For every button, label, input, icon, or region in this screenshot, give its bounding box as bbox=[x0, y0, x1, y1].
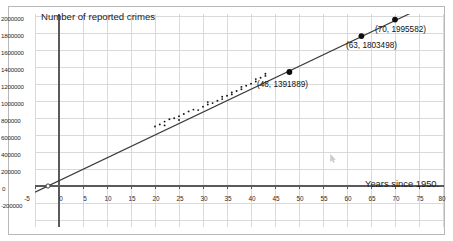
y-tick-label: 400000 bbox=[1, 152, 20, 158]
x-tick-label: 60 bbox=[340, 196, 356, 202]
scatter-points bbox=[154, 73, 266, 128]
y-tick-label: 1400000 bbox=[1, 67, 24, 73]
mouse-cursor-icon bbox=[330, 154, 336, 163]
point-annotation-70: (70, 1995582) bbox=[375, 25, 426, 34]
x-tick-label: 30 bbox=[196, 196, 212, 202]
x-tick-label: 20 bbox=[148, 196, 164, 202]
y-tick-label: 1600000 bbox=[1, 50, 24, 56]
y-axis-title: Number of reported crimes bbox=[41, 11, 155, 22]
x-tick-label: 5 bbox=[78, 196, 92, 202]
x-axis-title: Years since 1950. bbox=[365, 178, 439, 189]
x-tick-label: 50 bbox=[292, 196, 308, 202]
x-tick-label: 0 bbox=[54, 196, 68, 202]
data-point-70 bbox=[392, 17, 398, 23]
x-tick-label: 25 bbox=[172, 196, 188, 202]
x-tick-label: 45 bbox=[268, 196, 284, 202]
x-tick-label: 55 bbox=[316, 196, 332, 202]
y-axis-tick-labels: 2000000 1800000 1600000 1400000 1200000 … bbox=[0, 0, 36, 241]
data-point-63 bbox=[359, 33, 365, 39]
y-tick-label: 1200000 bbox=[1, 84, 24, 90]
x-tick-label: 80 bbox=[434, 196, 450, 202]
y-tick-label: 1000000 bbox=[1, 101, 24, 107]
x-tick-label: 75 bbox=[412, 196, 428, 202]
x-tick-label: 10 bbox=[100, 196, 116, 202]
x-tick-label: 40 bbox=[244, 196, 260, 202]
y-tick-label: 200000 bbox=[1, 169, 20, 175]
y-tick-label: 800000 bbox=[1, 118, 20, 124]
y-tick-label: 0 bbox=[2, 186, 5, 192]
point-annotation-48: (48, 1391889) bbox=[257, 80, 308, 89]
y-tick-label: 2000000 bbox=[1, 16, 24, 22]
y-tick-label: 1800000 bbox=[1, 33, 24, 39]
chart-screenshot: 2000000 1800000 1600000 1400000 1200000 … bbox=[0, 0, 453, 241]
x-tick-label: 15 bbox=[124, 196, 140, 202]
point-annotation-63: (63, 1803498) bbox=[346, 41, 397, 50]
x-intercept-marker bbox=[46, 184, 50, 188]
y-tick-label: -200000 bbox=[1, 203, 22, 209]
x-tick-label: 35 bbox=[220, 196, 236, 202]
x-tick-label: 70 bbox=[388, 196, 404, 202]
y-tick-label: 600000 bbox=[1, 135, 20, 141]
x-tick-label: -5 bbox=[20, 196, 34, 202]
x-tick-label: 65 bbox=[364, 196, 380, 202]
data-point-48 bbox=[287, 69, 293, 75]
